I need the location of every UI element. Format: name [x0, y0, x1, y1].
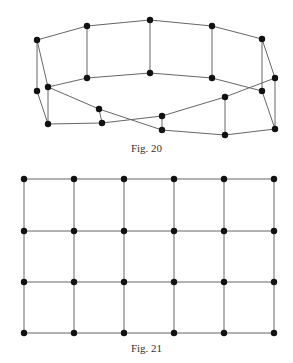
fig20-node	[45, 84, 51, 90]
fig20-node	[84, 23, 90, 29]
fig21-node	[221, 228, 227, 234]
fig20-edge	[262, 39, 275, 78]
fig21-node	[171, 330, 177, 336]
fig20-node	[147, 17, 153, 23]
fig21-node	[21, 330, 27, 336]
fig20-node	[259, 36, 265, 42]
fig21-node	[21, 228, 27, 234]
fig20-edge	[48, 123, 102, 124]
fig20-caption: Fig. 20	[0, 142, 293, 154]
fig20-node	[209, 75, 215, 81]
fig20-node	[159, 113, 165, 119]
fig20-edge	[225, 78, 275, 97]
fig20-edge	[262, 91, 275, 129]
fig20-node	[45, 121, 51, 127]
fig20-edge	[48, 78, 87, 87]
fig20-edge	[225, 129, 275, 135]
fig20-edge	[37, 91, 48, 124]
fig21-caption: Fig. 21	[0, 342, 293, 354]
fig20-node	[84, 75, 90, 81]
fig21-node	[21, 176, 27, 182]
fig20-node	[99, 120, 105, 126]
fig21-node	[221, 279, 227, 285]
fig21-node	[271, 176, 277, 182]
fig21-node	[71, 176, 77, 182]
fig20-node	[159, 127, 165, 133]
fig20-node	[222, 132, 228, 138]
fig20-edge	[212, 26, 262, 39]
fig20-edge	[87, 20, 150, 26]
fig20-node	[259, 88, 265, 94]
fig21-node	[121, 176, 127, 182]
fig20-edge	[37, 40, 48, 87]
fig21-node	[271, 279, 277, 285]
figures-canvas	[0, 0, 293, 363]
fig21-node	[271, 330, 277, 336]
fig20-edge	[162, 97, 225, 116]
fig21-node	[271, 228, 277, 234]
fig20-node	[272, 126, 278, 132]
fig21-node	[121, 228, 127, 234]
fig20-node	[209, 23, 215, 29]
fig21-node	[71, 228, 77, 234]
fig20-edge	[37, 26, 87, 40]
fig21-node	[21, 279, 27, 285]
fig20-node	[34, 37, 40, 43]
fig21-node	[121, 279, 127, 285]
fig21-node	[171, 176, 177, 182]
fig21-node	[71, 279, 77, 285]
fig20-node	[272, 75, 278, 81]
fig20-node	[147, 70, 153, 76]
fig21-node	[71, 330, 77, 336]
fig20-edge	[162, 130, 225, 135]
fig20-edge	[212, 78, 262, 91]
fig20-edge	[48, 87, 99, 109]
fig20-edge	[102, 116, 162, 123]
fig20-edge	[150, 20, 212, 26]
fig21-node	[171, 279, 177, 285]
fig20-node	[96, 106, 102, 112]
fig20-edge	[150, 73, 212, 78]
fig20-edge	[87, 73, 150, 78]
fig21-node	[171, 228, 177, 234]
fig21-node	[221, 330, 227, 336]
fig21-node	[221, 176, 227, 182]
fig20-node	[34, 88, 40, 94]
fig20-node	[222, 94, 228, 100]
fig21-node	[121, 330, 127, 336]
